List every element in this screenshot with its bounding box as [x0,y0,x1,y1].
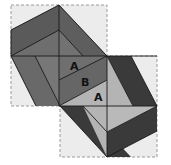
label-b: B [81,76,89,89]
label-a-bottom: A [94,91,103,104]
dissection-diagram: A B A [0,0,171,165]
label-a-top: A [70,60,79,73]
